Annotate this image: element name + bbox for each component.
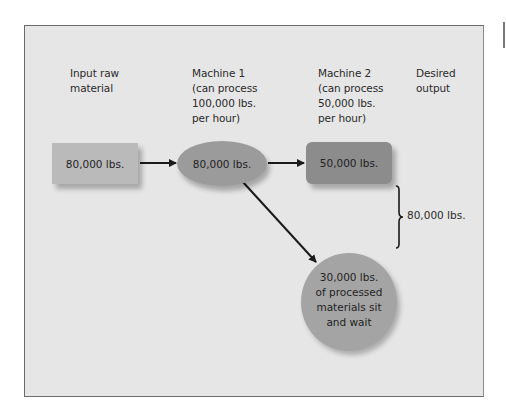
label-desired-output: Desired output: [416, 66, 455, 96]
brace-total-label: 80,000 lbs.: [407, 209, 465, 221]
label-input-raw-material: Input raw material: [70, 66, 119, 96]
node-input-raw-material: 80,000 lbs.: [52, 143, 138, 184]
node-machine-1: 80,000 lbs.: [177, 141, 267, 186]
node-waiting-inventory: 30,000 lbs. of processed materials sit a…: [301, 253, 397, 351]
label-machine-1: Machine 1 (can process 100,000 lbs. per …: [192, 66, 257, 126]
node-machine-2: 50,000 lbs.: [306, 142, 392, 184]
page-edge-mark: [503, 22, 505, 48]
label-machine-2: Machine 2 (can process 50,000 lbs. per h…: [318, 66, 383, 126]
